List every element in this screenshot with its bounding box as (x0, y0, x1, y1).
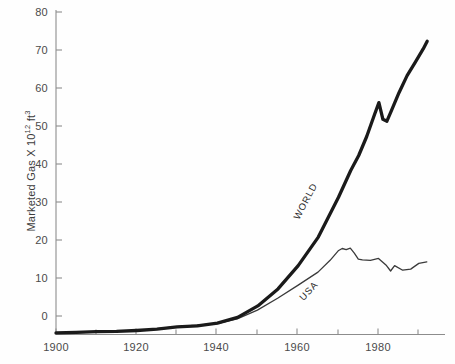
axes-group (56, 10, 445, 335)
y-tick-label-60: 60 (14, 82, 48, 94)
y-tick-label-40: 40 (14, 158, 48, 170)
series-line-world (56, 41, 427, 333)
series-line-usa (56, 248, 427, 333)
y-tick-label-50: 50 (14, 120, 48, 132)
x-tick-label-1920: 1920 (113, 341, 159, 353)
y-tick-label-80: 80 (14, 6, 48, 18)
gas-production-chart: Marketed Gas X 1012 ft3 (0, 0, 455, 364)
x-tick-label-1940: 1940 (193, 341, 239, 353)
y-axis-ticks (56, 12, 62, 316)
y-tick-label-70: 70 (14, 44, 48, 56)
y-tick-label-20: 20 (14, 234, 48, 246)
y-tick-label-30: 30 (14, 196, 48, 208)
chart-plot-area (0, 0, 455, 364)
x-tick-label-1960: 1960 (274, 341, 320, 353)
x-tick-label-1900: 1900 (33, 341, 79, 353)
y-tick-label-10: 10 (14, 272, 48, 284)
y-tick-label-0: 0 (14, 310, 48, 322)
x-tick-label-1980: 1980 (355, 341, 401, 353)
